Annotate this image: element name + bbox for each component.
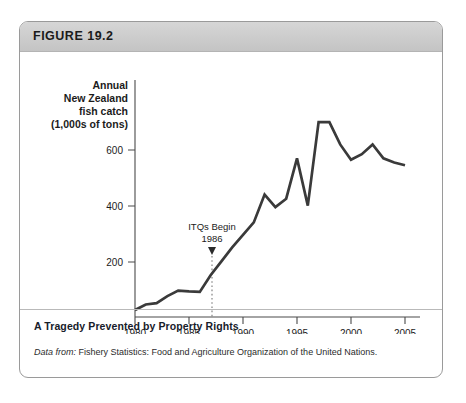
chart-caption: A Tragedy Prevented by Property Rights: [34, 320, 239, 332]
itq-arrow-icon: [208, 247, 216, 255]
y-axis-label-line3: fish catch: [79, 105, 128, 117]
source-prefix: Data from:: [34, 347, 76, 357]
chart-plot-area: Annual New Zealand fish catch (1,000s of…: [20, 52, 443, 334]
source-text: Fishery Statistics: Food and Agriculture…: [76, 347, 377, 357]
y-axis-label-line2: New Zealand: [64, 92, 128, 104]
y-tick-label-400: 400: [106, 201, 123, 212]
y-axis-label-line4: (1,000s of tons): [51, 118, 128, 130]
itq-annotation-line2: 1986: [201, 233, 222, 244]
y-tick-label-200: 200: [106, 257, 123, 268]
chart-source-note: Data from: Fishery Statistics: Food and …: [34, 347, 377, 357]
caption-block: A Tragedy Prevented by Property Rights D…: [20, 309, 442, 377]
figure-card: FIGURE 19.2 Annual New Zealand fish catc…: [19, 21, 443, 378]
fish-catch-series-line: [135, 122, 405, 310]
y-tick-label-600: 600: [106, 145, 123, 156]
figure-header-bar: FIGURE 19.2: [20, 22, 442, 52]
itq-annotation-line1: ITQs Begin: [188, 221, 236, 232]
y-axis-label-line1: Annual: [92, 79, 128, 91]
fish-catch-line-chart: Annual New Zealand fish catch (1,000s of…: [20, 52, 443, 334]
figure-number-label: FIGURE 19.2: [33, 29, 114, 43]
